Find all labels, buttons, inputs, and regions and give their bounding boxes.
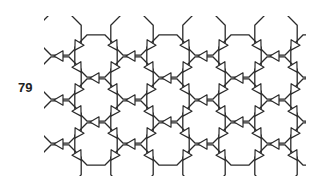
junction-triangle — [219, 84, 228, 94]
junction-triangle — [288, 150, 297, 160]
junction-triangle — [90, 117, 99, 127]
junction-triangle — [270, 139, 279, 149]
junction-triangle — [75, 128, 84, 138]
junction-triangle — [183, 62, 192, 72]
junction-triangle — [291, 84, 300, 94]
junction-triangle — [288, 62, 297, 72]
junction-triangle — [219, 40, 228, 50]
lattice-group — [39, 13, 333, 187]
junction-triangle — [252, 128, 261, 138]
junction-triangle — [72, 106, 81, 116]
junction-triangle — [180, 128, 189, 138]
junction-triangle — [75, 40, 84, 50]
junction-triangle — [216, 62, 225, 72]
junction-triangle — [108, 128, 117, 138]
junction-triangle — [54, 51, 63, 61]
junction-triangle — [198, 51, 207, 61]
junction-triangle — [126, 139, 135, 149]
junction-triangle — [144, 106, 153, 116]
octagon-triangle-lattice-diagram — [0, 0, 336, 189]
junction-triangle — [111, 106, 120, 116]
junction-triangle — [108, 84, 117, 94]
junction-triangle — [216, 106, 225, 116]
junction-triangle — [162, 117, 171, 127]
junction-triangle — [126, 51, 135, 61]
junction-triangle — [291, 40, 300, 50]
junction-triangle — [72, 62, 81, 72]
junction-triangle — [255, 106, 264, 116]
junction-triangle — [183, 150, 192, 160]
junction-triangle — [219, 128, 228, 138]
junction-triangle — [147, 40, 156, 50]
junction-triangle — [180, 84, 189, 94]
junction-triangle — [234, 117, 243, 127]
junction-triangle — [234, 73, 243, 83]
junction-triangle — [72, 150, 81, 160]
junction-triangle — [252, 40, 261, 50]
junction-triangle — [90, 73, 99, 83]
junction-triangle — [144, 150, 153, 160]
junction-triangle — [306, 117, 315, 127]
junction-triangle — [111, 62, 120, 72]
junction-triangle — [111, 150, 120, 160]
junction-triangle — [255, 62, 264, 72]
junction-triangle — [147, 128, 156, 138]
junction-triangle — [198, 139, 207, 149]
junction-triangle — [75, 84, 84, 94]
junction-triangle — [108, 40, 117, 50]
junction-triangle — [54, 95, 63, 105]
junction-triangle — [306, 73, 315, 83]
junction-triangle — [54, 139, 63, 149]
junction-triangle — [162, 73, 171, 83]
junction-triangle — [198, 95, 207, 105]
junction-triangle — [180, 40, 189, 50]
junction-triangle — [270, 51, 279, 61]
junction-triangle — [288, 106, 297, 116]
junction-triangle — [126, 95, 135, 105]
junction-triangle — [147, 84, 156, 94]
junction-triangle — [216, 150, 225, 160]
junction-triangle — [144, 62, 153, 72]
junction-triangle — [255, 150, 264, 160]
junction-triangle — [270, 95, 279, 105]
junction-triangle — [252, 84, 261, 94]
junction-triangle — [183, 106, 192, 116]
junction-triangle — [291, 128, 300, 138]
